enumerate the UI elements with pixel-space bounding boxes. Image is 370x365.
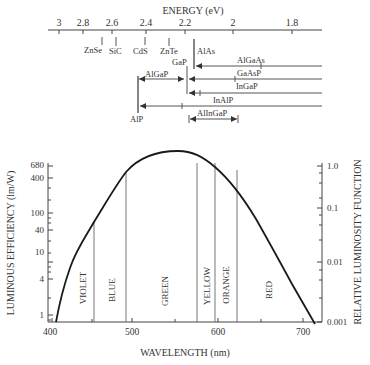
material-znte: ZnTe xyxy=(160,46,178,56)
band-label-yellow: YELLOW xyxy=(202,267,212,305)
energy-tick-label: 2.2 xyxy=(179,17,192,28)
x-tick-label: 700 xyxy=(296,327,311,337)
material-algap: AlGaP xyxy=(145,69,168,79)
x-tick-label: 500 xyxy=(125,327,140,337)
material-znse: ZnSe xyxy=(84,45,102,55)
material-alp: AlP xyxy=(130,114,144,124)
y-right-tick-label: 1.0 xyxy=(327,161,339,171)
y-left-tick-label: 4 xyxy=(40,274,45,284)
energy-tick-label: 2 xyxy=(231,17,236,28)
band-label-blue: BLUE xyxy=(107,278,117,302)
y-left-axis-title: LUMINOUS EFFICIENCY (lm/W) xyxy=(5,171,17,316)
energy-axis: ENERGY (eV) 3 2.8 2.6 2.4 2.2 2 1.8 xyxy=(48,5,322,34)
material-algaas: AlGaAs xyxy=(237,55,265,65)
material-gaasp: GaAsP xyxy=(237,68,261,78)
material-inalp: InAlP xyxy=(213,95,234,105)
x-axis-title: WAVELENGTH (nm) xyxy=(140,347,230,359)
plot-area: 680 400 100 40 10 4 1 1.0 0.1 xyxy=(31,151,348,337)
y-left-tick-label: 680 xyxy=(31,160,45,170)
energy-tick-label: 3 xyxy=(57,17,62,28)
luminous-efficiency-chart: ENERGY (eV) 3 2.8 2.6 2.4 2.2 2 1.8 ZnSe… xyxy=(0,0,370,365)
y-left-tick-label: 100 xyxy=(31,208,45,218)
material-markers: ZnSe SiC CdS ZnTe GaP AlAs AlGaAs GaAsP … xyxy=(84,37,322,124)
band-label-green: GREEN xyxy=(160,276,170,306)
energy-ticks xyxy=(59,30,292,34)
band-label-violet: VIOLET xyxy=(78,271,88,304)
band-label-orange: ORANGE xyxy=(221,266,231,304)
y-left-tick-label: 400 xyxy=(31,173,45,183)
left-y-ticks xyxy=(48,166,53,320)
x-ticks xyxy=(52,318,303,322)
energy-tick-label: 1.8 xyxy=(286,17,299,28)
material-alingap: AlInGaP xyxy=(197,108,227,118)
right-y-ticks xyxy=(317,166,322,322)
band-label-red: RED xyxy=(264,280,274,299)
energy-tick-label: 2.4 xyxy=(140,17,153,28)
x-tick-label: 600 xyxy=(211,327,226,337)
material-gap: GaP xyxy=(172,57,187,67)
energy-tick-label: 2.8 xyxy=(77,17,90,28)
y-left-tick-label: 40 xyxy=(35,225,45,235)
y-left-tick-label: 1 xyxy=(40,310,45,320)
x-tick-label: 400 xyxy=(43,327,58,337)
y-right-axis-title: RELATIVE LUMINOSITY FUNCTION xyxy=(352,159,363,324)
material-ingap: InGaP xyxy=(236,81,258,91)
energy-tick-label: 2.6 xyxy=(106,17,119,28)
y-right-tick-label: 0.001 xyxy=(327,317,347,327)
material-alas: AlAs xyxy=(197,46,215,56)
luminous-efficiency-curve xyxy=(56,151,315,324)
energy-axis-title: ENERGY (eV) xyxy=(162,5,223,17)
material-cds: CdS xyxy=(133,46,148,56)
y-right-tick-label: 0.01 xyxy=(327,257,343,267)
y-left-tick-label: 10 xyxy=(35,247,45,257)
y-right-tick-label: 0.1 xyxy=(327,203,338,213)
material-sic: SiC xyxy=(109,46,122,56)
